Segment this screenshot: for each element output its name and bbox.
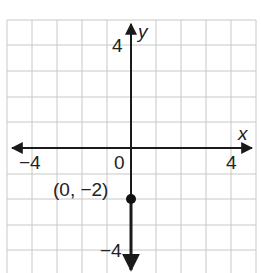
y-axis-label: y <box>136 21 149 42</box>
y-tick-4: 4 <box>112 35 123 56</box>
point-0-neg2 <box>126 194 136 204</box>
x-tick-0: 0 <box>114 152 125 173</box>
y-tick-neg4: −4 <box>100 240 122 261</box>
x-axis-label: x <box>237 123 249 144</box>
x-tick-4: 4 <box>226 152 237 173</box>
coordinate-plane: y x 4 −4 0 4 (0, −2) −4 <box>0 0 261 273</box>
x-tick-neg4: −4 <box>19 152 41 173</box>
point-label: (0, −2) <box>53 179 108 200</box>
